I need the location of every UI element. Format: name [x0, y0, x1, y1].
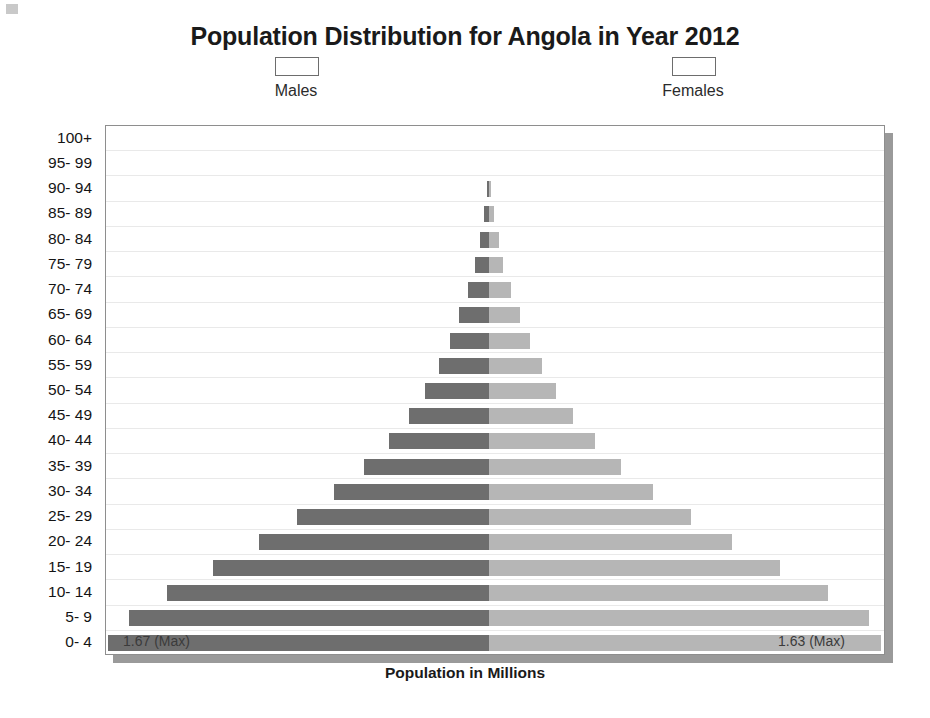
bar-female: [489, 610, 869, 626]
y-axis-tick-label: 40- 44: [48, 432, 92, 448]
bar-female: [489, 206, 494, 222]
gridline: [106, 302, 885, 303]
bar-female: [489, 358, 542, 374]
bar-female: [489, 585, 828, 601]
bar-male: [129, 610, 489, 626]
gridline: [106, 201, 885, 202]
y-axis-tick-label: 55- 59: [48, 357, 92, 373]
gridline: [106, 327, 885, 328]
bar-row: [106, 232, 885, 248]
bar-row: [106, 635, 885, 651]
gridline: [106, 403, 885, 404]
bar-female: [489, 534, 732, 550]
bar-female: [489, 484, 653, 500]
bar-male: [213, 560, 489, 576]
gridline: [106, 276, 885, 277]
plot-area: [105, 125, 885, 655]
gridline: [106, 251, 885, 252]
y-axis-tick-label: 20- 24: [48, 533, 92, 549]
bar-row: [106, 333, 885, 349]
bar-male: [475, 257, 489, 273]
legend-swatch-females: [672, 57, 716, 76]
bar-male: [450, 333, 489, 349]
legend-item-males: Males: [275, 57, 317, 100]
y-axis-tick-label: 45- 49: [48, 407, 92, 423]
bar-male: [167, 585, 489, 601]
gridline: [106, 579, 885, 580]
gridline: [106, 605, 885, 606]
gridline: [106, 554, 885, 555]
y-axis-tick-label: 30- 34: [48, 483, 92, 499]
y-axis-tick-label: 75- 79: [48, 256, 92, 272]
gridline: [106, 504, 885, 505]
gridline: [106, 529, 885, 530]
bar-female: [489, 232, 499, 248]
y-axis-tick-label: 15- 19: [48, 559, 92, 575]
bar-female: [489, 333, 530, 349]
bar-male: [439, 358, 489, 374]
bar-male: [480, 232, 489, 248]
bar-female: [489, 459, 621, 475]
bar-male: [259, 534, 489, 550]
bar-female: [489, 509, 691, 525]
y-axis-tick-label: 25- 29: [48, 508, 92, 524]
gridline: [106, 150, 885, 151]
y-axis-tick-label: 0- 4: [65, 634, 92, 650]
legend-swatch-males: [275, 57, 319, 76]
legend-label-females: Females: [637, 82, 749, 100]
bar-male: [334, 484, 489, 500]
bar-row: [106, 206, 885, 222]
legend-item-females: Females: [672, 57, 714, 100]
x-axis-title: Population in Millions: [0, 664, 930, 682]
bar-row: [106, 610, 885, 626]
gridline: [106, 175, 885, 176]
y-axis-tick-label: 60- 64: [48, 332, 92, 348]
y-axis-tick-label: 90- 94: [48, 180, 92, 196]
chart-title: Population Distribution for Angola in Ye…: [0, 22, 930, 51]
bar-row: [106, 408, 885, 424]
bar-female: [489, 282, 511, 298]
bar-male: [468, 282, 489, 298]
chart-page: Population Distribution for Angola in Ye…: [0, 0, 930, 718]
bar-row: [106, 459, 885, 475]
bar-female: [489, 383, 556, 399]
bar-row: [106, 484, 885, 500]
y-axis-tick-label: 70- 74: [48, 281, 92, 297]
max-annotation-males: 1.67 (Max): [123, 634, 190, 648]
y-axis-tick-label: 5- 9: [65, 609, 92, 625]
y-axis-tick-label: 85- 89: [48, 205, 92, 221]
scan-artifact: [6, 4, 18, 14]
bar-row: [106, 257, 885, 273]
bar-row: [106, 560, 885, 576]
y-axis-tick-label: 100+: [57, 130, 92, 146]
y-axis-tick-label: 95- 99: [48, 155, 92, 171]
bar-row: [106, 585, 885, 601]
bar-row: [106, 307, 885, 323]
y-axis-tick-label: 50- 54: [48, 382, 92, 398]
bar-row: [106, 282, 885, 298]
bar-male: [409, 408, 489, 424]
bar-female: [489, 408, 573, 424]
bar-row: [106, 433, 885, 449]
max-annotation-females: 1.63 (Max): [778, 634, 845, 648]
gridline: [106, 428, 885, 429]
bar-female: [489, 307, 520, 323]
legend-label-males: Males: [245, 82, 347, 100]
bar-male: [459, 307, 489, 323]
y-axis-tick-label: 35- 39: [48, 458, 92, 474]
bar-female: [489, 257, 503, 273]
bar-row: [106, 383, 885, 399]
gridline: [106, 453, 885, 454]
bar-row: [106, 131, 885, 147]
bar-row: [106, 181, 885, 197]
gridline: [106, 478, 885, 479]
bar-male: [425, 383, 489, 399]
y-axis-tick-label: 10- 14: [48, 584, 92, 600]
y-axis-tick-label: 65- 69: [48, 306, 92, 322]
y-axis-labels: 100+95- 9990- 9485- 8980- 8475- 7970- 74…: [0, 125, 100, 655]
bar-row: [106, 358, 885, 374]
gridline: [106, 377, 885, 378]
gridline: [106, 226, 885, 227]
bar-male: [364, 459, 489, 475]
y-axis-tick-label: 80- 84: [48, 231, 92, 247]
